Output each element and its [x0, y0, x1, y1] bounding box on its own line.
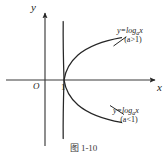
plot-canvas [0, 0, 167, 157]
equation-text-lower: y=log [113, 106, 132, 115]
x-tick-label-one: 1 [61, 83, 66, 92]
figure-caption: 图 1-10 [0, 144, 167, 153]
origin-label: O [33, 82, 40, 91]
x-axis-label: x [157, 82, 162, 93]
curve-condition-upper: (a>1) [117, 36, 143, 45]
curve-condition-lower: (a<1) [113, 116, 139, 125]
equation-argument-lower: x [135, 106, 139, 115]
logarithm-function-figure: y x O 1 y=logax (a>1) y=logax (a<1) 图 1-… [0, 0, 167, 157]
equation-argument-upper: x [139, 26, 143, 35]
curve-label-a-less-than-1: y=logax (a<1) [113, 107, 139, 125]
curve-label-a-greater-than-1: y=logax (a>1) [117, 27, 143, 45]
equation-text-upper: y=log [117, 26, 136, 35]
y-axis-label: y [31, 2, 36, 13]
